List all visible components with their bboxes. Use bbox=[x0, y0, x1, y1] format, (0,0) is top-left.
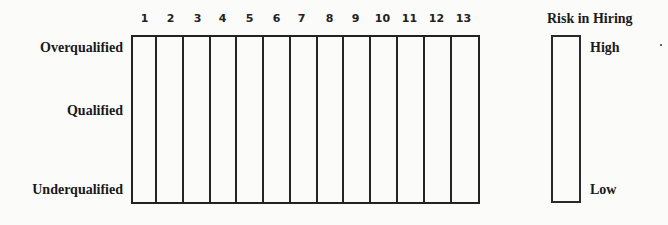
column-label-12: 12 bbox=[423, 12, 450, 25]
column-divider bbox=[369, 37, 371, 202]
column-label-8: 8 bbox=[316, 12, 343, 25]
column-divider bbox=[262, 37, 264, 202]
column-label-1: 1 bbox=[131, 12, 158, 25]
risk-scale-bar bbox=[551, 35, 581, 203]
column-divider bbox=[450, 37, 452, 202]
risk-scale-title: Risk in Hiring bbox=[547, 11, 633, 27]
stray-mark bbox=[660, 44, 662, 46]
risk-level-low: Low bbox=[590, 182, 616, 198]
column-divider bbox=[182, 37, 184, 202]
column-label-3: 3 bbox=[184, 12, 211, 25]
column-divider bbox=[235, 37, 237, 202]
qualification-risk-diagram: 1 2 3 4 5 6 7 8 9 10 11 12 13 Overqualif… bbox=[0, 0, 668, 225]
column-label-5: 5 bbox=[236, 12, 263, 25]
column-label-2: 2 bbox=[157, 12, 184, 25]
column-label-9: 9 bbox=[342, 12, 369, 25]
column-divider bbox=[342, 37, 344, 202]
column-label-13: 13 bbox=[450, 12, 477, 25]
row-label-qualified: Qualified bbox=[67, 103, 123, 119]
column-label-6: 6 bbox=[263, 12, 290, 25]
column-label-10: 10 bbox=[369, 12, 396, 25]
row-label-overqualified: Overqualified bbox=[40, 40, 123, 56]
column-divider bbox=[423, 37, 425, 202]
column-divider bbox=[289, 37, 291, 202]
candidate-grid bbox=[131, 35, 480, 204]
column-label-7: 7 bbox=[288, 12, 315, 25]
column-divider bbox=[316, 37, 318, 202]
risk-level-high: High bbox=[590, 40, 620, 56]
column-label-4: 4 bbox=[209, 12, 236, 25]
row-label-underqualified: Underqualified bbox=[32, 182, 123, 198]
column-divider bbox=[396, 37, 398, 202]
column-divider bbox=[209, 37, 211, 202]
column-label-11: 11 bbox=[396, 12, 423, 25]
column-divider bbox=[155, 37, 157, 202]
